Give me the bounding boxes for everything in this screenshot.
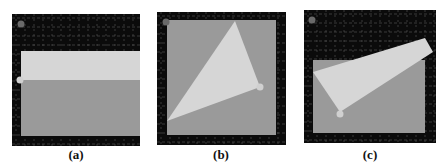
- label-c: (c): [350, 147, 390, 163]
- pivot-dot: [337, 111, 344, 118]
- scene-canvas: [304, 10, 436, 143]
- pivot-dot: [257, 84, 264, 91]
- scene-canvas: [157, 12, 286, 145]
- label-a: (a): [56, 147, 96, 163]
- corner-dot: [163, 19, 170, 26]
- panel-c: [304, 10, 436, 143]
- panel-b: [157, 12, 286, 145]
- corner-dot: [18, 21, 25, 28]
- label-b: (b): [201, 147, 241, 163]
- corner-dot: [309, 17, 316, 24]
- scene-canvas: [12, 14, 140, 146]
- panel-a: [12, 14, 140, 146]
- pivot-dot: [17, 77, 24, 84]
- light-shape: [21, 51, 140, 80]
